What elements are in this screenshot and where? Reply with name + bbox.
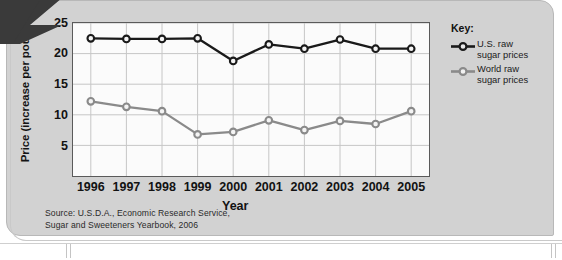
legend-line-marker-icon	[450, 40, 476, 53]
source-note: Source: U.S.D.A., Economic Research Serv…	[45, 208, 230, 231]
legend-label-us: U.S. raw sugar prices	[476, 39, 528, 60]
chart-canvas	[73, 23, 429, 176]
plot-area	[72, 22, 430, 177]
series-line-world	[91, 101, 411, 134]
data-point	[301, 127, 308, 134]
series-line-us	[91, 38, 411, 61]
data-point	[123, 36, 130, 43]
legend-label-us-line2: sugar prices	[477, 50, 528, 61]
legend-item-world-raw-sugar-prices: World raw sugar prices	[450, 64, 556, 85]
data-point	[230, 58, 237, 65]
data-point	[159, 108, 166, 115]
binding-tick	[66, 244, 67, 258]
legend-line-marker-icon	[450, 65, 476, 78]
y-tick-20: 20	[42, 46, 68, 60]
data-point	[301, 45, 308, 52]
legend-label-us-line1: U.S. raw	[477, 39, 528, 50]
data-point	[337, 36, 344, 43]
data-point	[372, 121, 379, 128]
data-point	[159, 36, 166, 43]
y-tick-5: 5	[42, 139, 68, 153]
data-point	[123, 104, 130, 111]
data-point	[266, 117, 273, 124]
data-point	[88, 35, 95, 42]
legend-item-us-raw-sugar-prices: U.S. raw sugar prices	[450, 39, 556, 60]
chart-legend: Key: U.S. raw sugar prices World raw sug…	[450, 22, 556, 89]
data-point	[372, 45, 379, 52]
page-bottom-rule	[0, 243, 562, 244]
legend-label-world: World raw sugar prices	[476, 64, 528, 85]
chart-screenshot: Price (increase per pound) 25 20 15 10 5…	[0, 0, 562, 260]
data-point	[230, 129, 237, 136]
data-point	[337, 118, 344, 125]
data-point	[88, 98, 95, 105]
data-point	[194, 131, 201, 138]
y-tick-10: 10	[42, 108, 68, 122]
source-line-2: Sugar and Sweeteners Yearbook, 2006	[45, 220, 230, 232]
binding-tick	[555, 244, 556, 258]
x-tick-2005: 2005	[388, 180, 434, 194]
x-axis-tick-labels: 1996199719981999200020012002200320042005	[72, 180, 430, 198]
data-point	[408, 45, 415, 52]
binding-tick	[551, 244, 552, 258]
y-tick-15: 15	[42, 77, 68, 91]
binding-tick	[70, 244, 71, 258]
source-line-1: Source: U.S.D.A., Economic Research Serv…	[45, 208, 230, 220]
legend-title: Key:	[451, 22, 556, 34]
data-point	[408, 108, 415, 115]
data-point	[194, 35, 201, 42]
legend-label-world-line2: sugar prices	[477, 75, 528, 86]
data-point	[266, 41, 273, 48]
